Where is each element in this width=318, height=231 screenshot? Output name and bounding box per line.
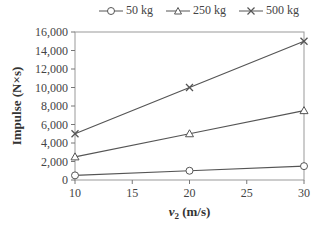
line-chart: 02,0004,0006,0008,00010,00012,00014,0001… [0,0,318,231]
y-tick-label: 10,000 [35,81,68,95]
circle-marker-icon [72,172,79,179]
circle-marker-icon [186,167,193,174]
x-axis-label: v2 (m/s) [169,204,211,221]
x-tick-label: 20 [184,186,196,200]
x-tick-label: 30 [298,186,310,200]
circle-marker-icon [301,163,308,170]
y-tick-label: 14,000 [35,44,68,58]
y-tick-label: 6,000 [41,118,68,132]
triangle-marker-icon [300,107,308,114]
x-tick-label: 25 [241,186,253,200]
y-tick-label: 2,000 [41,155,68,169]
y-tick-label: 8,000 [41,99,68,113]
y-tick-label: 4,000 [41,136,68,150]
x-tick-label: 10 [69,186,81,200]
y-tick-label: 12,000 [35,62,68,76]
y-tick-label: 0 [62,173,68,187]
plot-area [75,32,304,180]
y-axis-label: Impulse (N×s) [9,67,24,146]
y-tick-label: 16,000 [35,25,68,39]
x-tick-label: 15 [126,186,138,200]
x-marker-icon [186,84,193,91]
